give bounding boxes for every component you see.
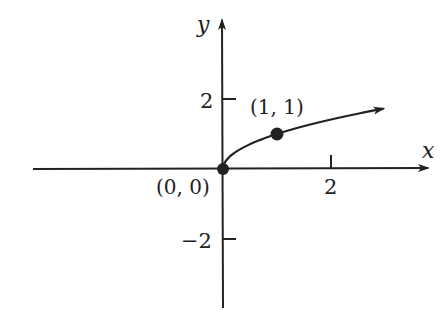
point-one-one (271, 128, 284, 141)
x-axis (33, 168, 428, 169)
point-label-one-one: (1, 1) (250, 95, 304, 119)
y-axis-label: y (196, 12, 210, 37)
y-tick-label-2: 2 (200, 89, 213, 113)
point-label-origin: (0, 0) (156, 175, 210, 199)
x-tick-label-2: 2 (324, 175, 337, 199)
point-origin (217, 163, 229, 175)
y-tick-label-neg2: −2 (181, 229, 212, 253)
x-axis-label: x (422, 138, 435, 163)
sqrt-function-graph: y x 2 −2 2 (0, 0) (1, 1) (0, 0, 447, 324)
